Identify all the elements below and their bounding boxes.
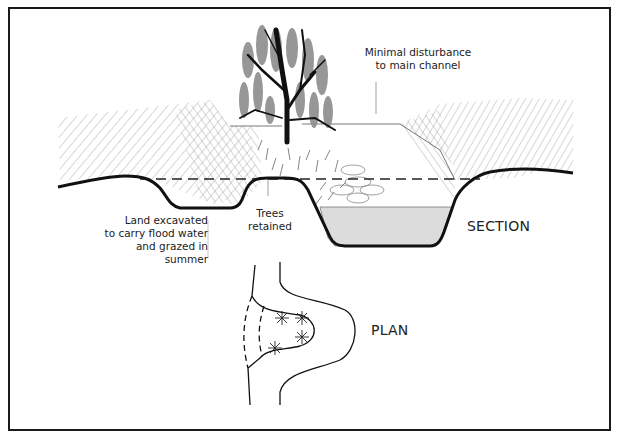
label-line: Trees [240,207,300,220]
label-line: retained [240,220,300,233]
label-line: to main channel [356,59,480,72]
plan-view [244,262,355,405]
label-line: and grazed in summer [92,240,208,266]
willow-tree-icon [239,25,335,142]
plan-title: PLAN [371,322,408,338]
label-excavated-land: Land excavated to carry flood water and … [92,214,208,266]
label-main-channel: Minimal disturbance to main channel [356,46,480,72]
reeds [258,140,346,205]
water-lilies [330,165,384,203]
label-line: Minimal disturbance [356,46,480,59]
section-title: SECTION [467,218,530,234]
left-bank-hatching [58,100,282,205]
channel-water [320,207,452,246]
label-trees-retained: Trees retained [240,207,300,233]
label-line: to carry flood water [92,227,208,240]
label-line: Land excavated [92,214,208,227]
